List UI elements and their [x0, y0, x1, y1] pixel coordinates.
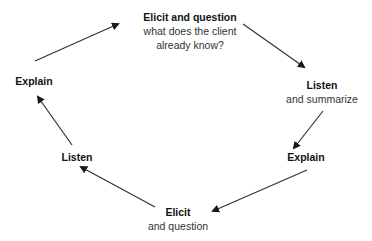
node-explain-left: Explain	[15, 74, 52, 88]
arrow-n1-n2	[243, 24, 304, 67]
node-subtitle: already know?	[143, 38, 236, 52]
node-title: Explain	[15, 74, 52, 88]
node-subtitle: and question	[148, 219, 208, 233]
arrow-n6-n1	[35, 24, 118, 61]
arrow-n5-n6	[38, 97, 72, 145]
node-title: Explain	[287, 150, 324, 164]
node-title: Elicit and question	[143, 10, 236, 24]
node-listen-and-summarize: Listen and summarize	[286, 78, 358, 106]
node-elicit-and-question: Elicit and question what does the client…	[143, 10, 236, 52]
node-elicit-bottom: Elicit and question	[148, 205, 208, 233]
arrow-n3-n4	[213, 170, 307, 211]
arrow-n2-n3	[294, 111, 323, 148]
node-title: Listen	[62, 150, 93, 164]
arrow-n4-n5	[81, 167, 155, 207]
node-subtitle: and summarize	[286, 92, 358, 106]
node-listen-left: Listen	[62, 150, 93, 164]
node-explain-right: Explain	[287, 150, 324, 164]
node-title: Listen	[286, 78, 358, 92]
node-subtitle: what does the client	[143, 24, 236, 38]
node-title: Elicit	[148, 205, 208, 219]
